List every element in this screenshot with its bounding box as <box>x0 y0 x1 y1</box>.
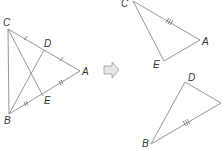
bottom-right-triangle-figure: D B <box>142 72 221 149</box>
right-arrow-icon <box>104 62 119 78</box>
vertex-label-A: A <box>81 66 89 77</box>
vertex-label-B: B <box>142 138 149 149</box>
vertex-label-C: C <box>3 17 11 28</box>
segment-CB <box>8 29 9 114</box>
left-triangle-figure: C D A E B <box>3 17 89 126</box>
geometry-figure: C D A E B C A E D B <box>0 0 223 149</box>
segment-DA <box>185 82 221 103</box>
vertex-label-D: D <box>188 72 195 83</box>
segment-AB <box>151 103 221 144</box>
vertex-label-E: E <box>153 59 160 70</box>
vertex-label-B: B <box>4 115 11 126</box>
segment-BD <box>9 50 44 114</box>
vertex-label-E: E <box>44 95 51 106</box>
vertex-label-C: C <box>121 0 129 9</box>
vertex-label-A: A <box>201 36 209 47</box>
top-right-triangle-figure: C A E <box>121 0 209 70</box>
segment-DB <box>151 82 185 144</box>
segment-BA <box>9 71 80 114</box>
vertex-label-D: D <box>44 38 51 49</box>
segment-AE <box>164 40 200 61</box>
